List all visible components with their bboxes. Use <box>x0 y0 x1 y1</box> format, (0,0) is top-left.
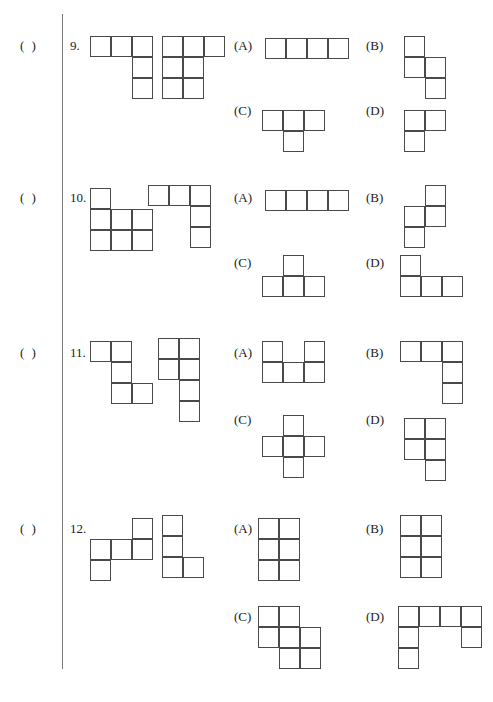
polyomino-cell <box>404 418 425 439</box>
polyomino-cell <box>425 185 446 206</box>
polyomino-cell <box>90 36 111 57</box>
polyomino-cell <box>279 539 300 560</box>
polyomino-cell <box>283 255 304 276</box>
option-label[interactable]: (D) <box>366 103 384 119</box>
polyomino-cell <box>179 338 200 359</box>
option-label[interactable]: (B) <box>366 38 383 54</box>
polyomino-cell <box>158 359 179 380</box>
polyomino-cell <box>404 439 425 460</box>
polyomino-cell <box>90 188 111 209</box>
polyomino-cell <box>304 362 325 383</box>
polyomino-cell <box>132 539 153 560</box>
option-label[interactable]: (C) <box>234 609 251 625</box>
option-label[interactable]: (A) <box>234 521 252 537</box>
prompt-figure-2 <box>162 36 225 99</box>
option-label[interactable]: (A) <box>234 190 252 206</box>
option-label[interactable]: (B) <box>366 521 383 537</box>
polyomino-cell <box>169 185 190 206</box>
polyomino-cell <box>304 110 325 131</box>
polyomino-cell <box>421 341 442 362</box>
polyomino-cell <box>400 255 421 276</box>
polyomino-cell <box>111 341 132 362</box>
polyomino-cell <box>162 557 183 578</box>
polyomino-cell <box>328 38 349 59</box>
polyomino-cell <box>111 36 132 57</box>
polyomino-cell <box>190 206 211 227</box>
worksheet-page: ( )9.(A)(B)(C)(D)( )10.(A)(B)(C)(D)( )11… <box>0 0 493 702</box>
polyomino-cell <box>162 78 183 99</box>
option-figure-c <box>262 110 325 152</box>
option-label[interactable]: (D) <box>366 255 384 271</box>
polyomino-cell <box>90 209 111 230</box>
polyomino-cell <box>111 383 132 404</box>
answer-blank[interactable]: ( ) <box>20 345 38 361</box>
option-label[interactable]: (C) <box>234 103 251 119</box>
option-figure-b <box>404 36 446 99</box>
option-figure-d <box>404 418 446 481</box>
prompt-figure-2 <box>162 515 204 578</box>
option-figure-c <box>262 415 325 478</box>
polyomino-cell <box>283 276 304 297</box>
polyomino-cell <box>190 227 211 248</box>
question-number: 12. <box>70 521 86 537</box>
polyomino-cell <box>111 539 132 560</box>
polyomino-cell <box>132 57 153 78</box>
polyomino-cell <box>425 57 446 78</box>
option-label[interactable]: (C) <box>234 412 251 428</box>
answer-blank[interactable]: ( ) <box>20 190 38 206</box>
polyomino-cell <box>132 383 153 404</box>
option-figure-a <box>258 518 300 581</box>
polyomino-cell <box>400 557 421 578</box>
polyomino-cell <box>265 190 286 211</box>
polyomino-cell <box>283 131 304 152</box>
polyomino-cell <box>190 185 211 206</box>
option-label[interactable]: (B) <box>366 190 383 206</box>
answer-blank[interactable]: ( ) <box>20 521 38 537</box>
polyomino-cell <box>440 606 461 627</box>
polyomino-cell <box>442 383 463 404</box>
polyomino-cell <box>111 362 132 383</box>
answer-blank[interactable]: ( ) <box>20 38 38 54</box>
polyomino-cell <box>258 560 279 581</box>
polyomino-cell <box>258 518 279 539</box>
polyomino-cell <box>111 209 132 230</box>
polyomino-cell <box>279 648 300 669</box>
polyomino-cell <box>425 110 446 131</box>
polyomino-cell <box>404 110 425 131</box>
polyomino-cell <box>162 36 183 57</box>
option-label[interactable]: (A) <box>234 345 252 361</box>
question-number: 10. <box>70 190 86 206</box>
polyomino-cell <box>404 36 425 57</box>
polyomino-cell <box>425 460 446 481</box>
polyomino-cell <box>179 380 200 401</box>
polyomino-cell <box>258 606 279 627</box>
polyomino-cell <box>262 436 283 457</box>
polyomino-cell <box>183 57 204 78</box>
polyomino-cell <box>419 606 440 627</box>
polyomino-cell <box>132 518 153 539</box>
option-label[interactable]: (D) <box>366 609 384 625</box>
option-figure-b <box>404 185 446 248</box>
polyomino-cell <box>425 78 446 99</box>
polyomino-cell <box>442 276 463 297</box>
polyomino-cell <box>279 560 300 581</box>
option-label[interactable]: (D) <box>366 412 384 428</box>
polyomino-cell <box>179 359 200 380</box>
option-label[interactable]: (B) <box>366 345 383 361</box>
option-label[interactable]: (C) <box>234 255 251 271</box>
polyomino-cell <box>304 341 325 362</box>
prompt-figure-1 <box>90 188 153 251</box>
polyomino-cell <box>279 606 300 627</box>
polyomino-cell <box>283 110 304 131</box>
polyomino-cell <box>421 515 442 536</box>
option-label[interactable]: (A) <box>234 38 252 54</box>
polyomino-cell <box>179 401 200 422</box>
polyomino-cell <box>258 627 279 648</box>
option-figure-b <box>400 341 463 404</box>
polyomino-cell <box>328 190 349 211</box>
polyomino-cell <box>283 436 304 457</box>
polyomino-cell <box>90 341 111 362</box>
option-figure-a <box>265 38 349 59</box>
polyomino-cell <box>90 560 111 581</box>
polyomino-cell <box>111 230 132 251</box>
